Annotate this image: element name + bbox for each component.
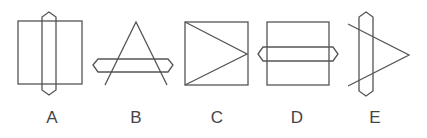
option-d-figure[interactable] <box>258 22 338 85</box>
vertical-hexagon-bar-shape <box>359 12 373 96</box>
open-triangle-shape <box>105 22 167 85</box>
open-triangle-shape <box>348 24 409 86</box>
option-c-label: C <box>211 108 223 127</box>
inner-triangle-shape <box>185 22 247 85</box>
option-e-figure[interactable] <box>348 12 409 96</box>
vertical-hexagon-bar-shape <box>42 12 56 95</box>
figure-canvas: A B C D E <box>0 0 427 138</box>
square-shape <box>267 22 329 85</box>
square-shape <box>18 21 82 84</box>
horizontal-hexagon-bar-shape <box>93 59 173 72</box>
option-e-label: E <box>369 108 380 127</box>
option-b-figure[interactable] <box>93 22 173 85</box>
option-a-figure[interactable] <box>18 12 82 95</box>
horizontal-hexagon-bar-shape <box>258 47 338 61</box>
option-a-label: A <box>46 108 58 127</box>
option-d-label: D <box>291 108 303 127</box>
option-b-label: B <box>130 108 141 127</box>
square-shape <box>185 22 248 85</box>
option-c-figure[interactable] <box>185 22 248 85</box>
